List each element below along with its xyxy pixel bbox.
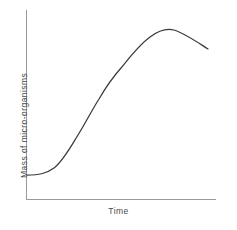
growth-curve-figure: Mass of micro-organisms Time bbox=[0, 0, 237, 230]
chart-canvas bbox=[0, 0, 237, 230]
x-axis-label: Time bbox=[0, 206, 237, 216]
growth-curve-path bbox=[27, 29, 208, 175]
y-axis-label: Mass of micro-organisms bbox=[19, 73, 29, 178]
